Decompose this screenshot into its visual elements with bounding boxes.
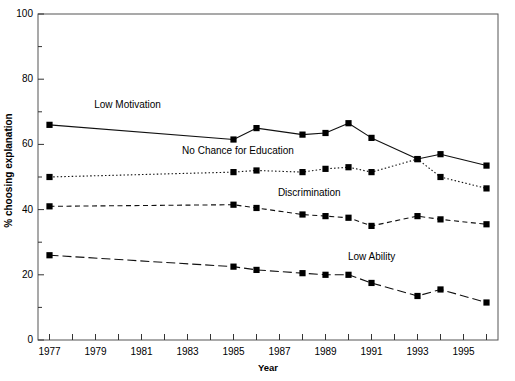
y-axis-tick-label: 80 [7, 74, 33, 84]
data-point-marker [299, 270, 305, 276]
series-annotation-label: Low Motivation [94, 99, 161, 110]
data-point-marker [253, 267, 259, 273]
y-axis-tick-label: 20 [7, 270, 33, 280]
data-point-marker [368, 223, 374, 229]
x-axis-tick-label: 1981 [122, 347, 162, 357]
data-point-marker [253, 125, 259, 131]
data-point-marker [230, 169, 236, 175]
data-series [46, 202, 489, 229]
data-point-marker [46, 122, 52, 128]
y-axis-tick-label: 0 [7, 335, 33, 345]
data-point-marker [414, 156, 420, 162]
series-annotation-label: Discrimination [278, 187, 341, 198]
x-axis-tick-label: 1987 [260, 347, 300, 357]
data-point-marker [345, 120, 351, 126]
data-point-marker [437, 151, 443, 157]
data-series [46, 156, 489, 192]
data-point-marker [299, 169, 305, 175]
series-annotation-label: Low Ability [348, 251, 395, 262]
x-axis-tick-label: 1977 [30, 347, 70, 357]
x-axis-tick-label: 1991 [352, 347, 392, 357]
data-point-marker [322, 213, 328, 219]
data-point-marker [483, 162, 489, 168]
x-axis-tick-label: 1983 [168, 347, 208, 357]
series-line [50, 255, 487, 302]
data-point-marker [368, 135, 374, 141]
x-axis-tick-label: 1985 [214, 347, 254, 357]
data-point-marker [230, 136, 236, 142]
data-point-marker [368, 280, 374, 286]
data-point-marker [230, 202, 236, 208]
data-point-marker [414, 293, 420, 299]
data-point-marker [322, 166, 328, 172]
x-axis-tick-label: 1995 [444, 347, 484, 357]
data-point-marker [483, 185, 489, 191]
data-point-marker [230, 264, 236, 270]
y-axis-tick-label: 60 [7, 139, 33, 149]
x-axis-tick-label: 1993 [398, 347, 438, 357]
data-point-marker [46, 252, 52, 258]
series-annotation-label: No Chance for Education [182, 145, 294, 156]
data-point-marker [322, 130, 328, 136]
data-point-marker [368, 169, 374, 175]
data-point-marker [345, 164, 351, 170]
y-axis-tick-label: 100 [7, 9, 33, 19]
data-point-marker [345, 272, 351, 278]
x-axis-tick-label: 1979 [76, 347, 116, 357]
data-point-marker [299, 211, 305, 217]
data-point-marker [437, 174, 443, 180]
plot-canvas [0, 0, 515, 381]
data-point-marker [483, 221, 489, 227]
data-point-marker [253, 205, 259, 211]
x-axis-title: Year [38, 362, 498, 373]
data-point-marker [483, 299, 489, 305]
plot-frame [38, 14, 498, 340]
data-point-marker [46, 203, 52, 209]
data-point-marker [437, 216, 443, 222]
data-point-marker [437, 286, 443, 292]
data-point-marker [299, 132, 305, 138]
series-line [50, 205, 487, 226]
data-point-marker [46, 174, 52, 180]
data-point-marker [322, 272, 328, 278]
x-axis-tick-label: 1989 [306, 347, 346, 357]
data-point-marker [414, 213, 420, 219]
data-point-marker [253, 167, 259, 173]
y-axis-tick-label: 40 [7, 205, 33, 215]
data-series [46, 252, 489, 305]
data-point-marker [345, 215, 351, 221]
line-chart-figure: % choosing explanation Year 020406080100… [0, 0, 515, 381]
series-line [50, 159, 487, 188]
